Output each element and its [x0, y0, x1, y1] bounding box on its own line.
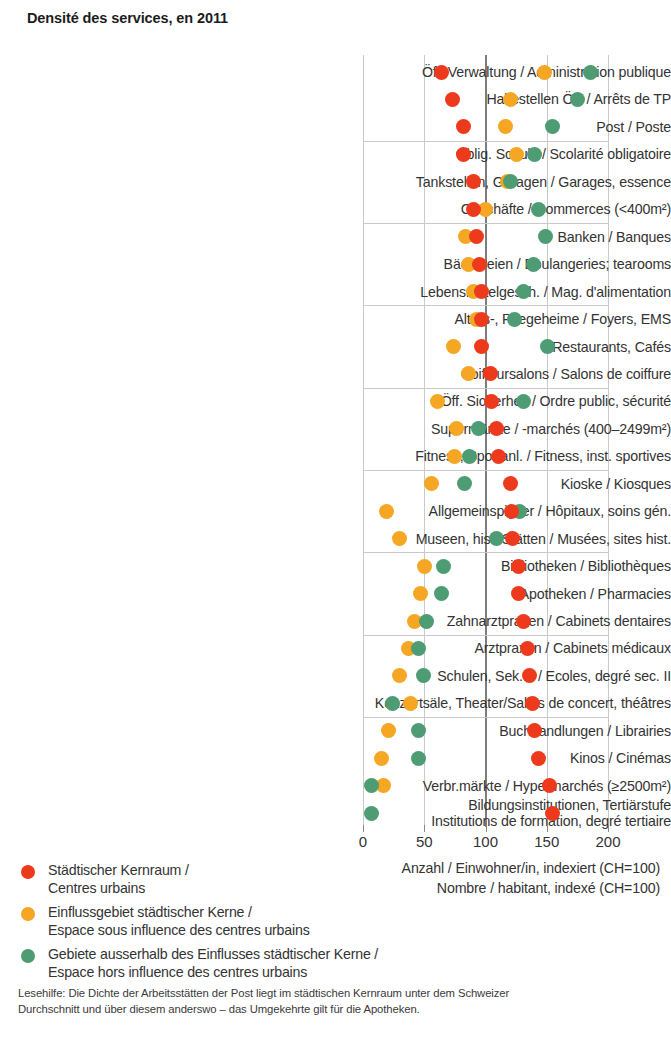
- category-label: Arztpraxen / Cabinets médicaux: [319, 640, 671, 656]
- data-point: [419, 614, 434, 629]
- data-point: [462, 449, 477, 464]
- category-label: Haltestellen ÖV / Arrêts de TP: [319, 91, 671, 107]
- axis-tick-label: 50: [416, 833, 433, 850]
- data-point: [570, 92, 585, 107]
- category-label: Allgemeinspitäler / Hôpitaux, soins gén.: [319, 503, 671, 519]
- data-point: [503, 476, 518, 491]
- data-point: [520, 641, 535, 656]
- category-label: Öff. Verwaltung / Administration publiqu…: [319, 64, 671, 80]
- data-point: [498, 119, 513, 134]
- group-separator: [363, 552, 609, 553]
- data-point: [411, 751, 426, 766]
- footnote-line-1: Lesehilfe: Die Dichte der Arbeitsstätten…: [18, 986, 658, 1002]
- category-label: Post / Poste: [319, 119, 671, 135]
- data-point: [411, 723, 426, 738]
- data-point: [434, 586, 449, 601]
- legend-item-2: Gebiete ausserhalb des Einflusses städti…: [18, 946, 348, 981]
- axis-tick-label: 100: [473, 833, 498, 850]
- data-point: [583, 65, 598, 80]
- data-point: [445, 92, 460, 107]
- group-separator: [363, 388, 609, 389]
- axis-tick-label: 0: [359, 833, 367, 850]
- legend-item-1: Einflussgebiet städtischer Kerne /Espace…: [18, 904, 348, 939]
- category-label: Tankstellen, Garagen / Garages, essence: [319, 174, 671, 190]
- category-label: Zahnarztpraxen / Cabinets dentaires: [319, 613, 671, 629]
- data-point: [379, 504, 394, 519]
- legend-swatch-icon: [21, 865, 35, 879]
- axis-tick-label: 150: [534, 833, 559, 850]
- category-label: Lebensmittelgesch. / Mag. d'alimentation: [319, 284, 671, 300]
- category-label: Schulen, Sek. II / Ecoles, degré sec. II: [319, 668, 671, 684]
- axis-tick: [547, 825, 548, 832]
- data-point: [456, 147, 471, 162]
- legend-label-line-1: Städtischer Kernraum /: [48, 862, 348, 880]
- data-point: [505, 531, 520, 546]
- group-separator: [363, 717, 609, 718]
- data-point: [527, 147, 542, 162]
- category-label: Kioske / Kiosques: [319, 476, 671, 492]
- data-point: [434, 65, 449, 80]
- data-point: [411, 641, 426, 656]
- category-label: Konzertsäle, Theater/Salles de concert, …: [319, 695, 671, 711]
- category-label: Oblig. Schule / Scolarité obligatoire: [319, 146, 671, 162]
- data-point: [516, 394, 531, 409]
- legend-item-0: Städtischer Kernraum /Centres urbains: [18, 862, 348, 897]
- legend-swatch-icon: [21, 907, 35, 921]
- legend-label-line-2: Espace sous influence des centres urbain…: [48, 922, 348, 940]
- legend-swatch-icon: [21, 949, 35, 963]
- data-point: [509, 147, 524, 162]
- axis-tick: [424, 825, 425, 832]
- data-point: [503, 92, 518, 107]
- footnote: Lesehilfe: Die Dichte der Arbeitsstätten…: [18, 986, 658, 1017]
- category-label: Buchhandlungen / Librairies: [319, 723, 671, 739]
- data-point: [417, 559, 432, 574]
- category-label: Geschäfte / Commerces (<400m²): [319, 201, 671, 217]
- category-label: Alters-, Pflegeheime / Foyers, EMS: [319, 311, 671, 327]
- data-point: [516, 614, 531, 629]
- x-axis: 050100150200: [0, 825, 671, 857]
- legend: Städtischer Kernraum /Centres urbainsEin…: [18, 862, 348, 988]
- data-point: [525, 696, 540, 711]
- data-point: [466, 174, 481, 189]
- axis-tick: [363, 825, 364, 832]
- legend-label-line-1: Gebiete ausserhalb des Einflusses städti…: [48, 946, 348, 964]
- plot-area: Öff. Verwaltung / Administration publiqu…: [0, 55, 671, 825]
- data-point: [507, 312, 522, 327]
- footnote-line-2: Durchschnitt und über diesem anderswo – …: [18, 1002, 658, 1018]
- data-point: [503, 174, 518, 189]
- data-point: [526, 257, 541, 272]
- data-point: [436, 559, 451, 574]
- data-point: [474, 312, 489, 327]
- group-separator: [363, 305, 609, 306]
- data-point: [545, 806, 560, 821]
- axis-tick: [486, 825, 487, 832]
- data-point: [516, 284, 531, 299]
- category-label: Kinos / Cinémas: [319, 750, 671, 766]
- group-separator: [363, 635, 609, 636]
- legend-label-line-2: Centres urbains: [48, 880, 348, 898]
- legend-label-line-2: Espace hors influence des centres urbain…: [48, 964, 348, 982]
- data-point: [471, 421, 486, 436]
- category-label: Restaurants, Cafés: [319, 339, 671, 355]
- axis-caption: Anzahl / Einwohner/in, indexiert (CH=100…: [330, 858, 660, 898]
- data-point: [364, 806, 379, 821]
- axis-tick: [608, 825, 609, 832]
- category-label: Banken / Banques: [319, 229, 671, 245]
- data-point: [449, 421, 464, 436]
- data-point: [416, 668, 431, 683]
- legend-label-line-1: Einflussgebiet städtischer Kerne /: [48, 904, 348, 922]
- category-label: Bäckereien / Boulangeries; tearooms: [319, 256, 671, 272]
- data-point: [542, 778, 557, 793]
- axis-caption-de: Anzahl / Einwohner/in, indexiert (CH=100…: [330, 858, 660, 878]
- data-point: [531, 202, 546, 217]
- data-point: [385, 696, 400, 711]
- group-separator: [363, 141, 609, 142]
- group-separator: [363, 223, 609, 224]
- category-label: Bibliotheken / Bibliothèques: [319, 558, 671, 574]
- data-point: [484, 394, 499, 409]
- data-point: [504, 504, 519, 519]
- data-point: [472, 257, 487, 272]
- data-point: [537, 65, 552, 80]
- category-label: Apotheken / Pharmacies: [319, 586, 671, 602]
- page-title: Densité des services, en 2011: [27, 10, 228, 26]
